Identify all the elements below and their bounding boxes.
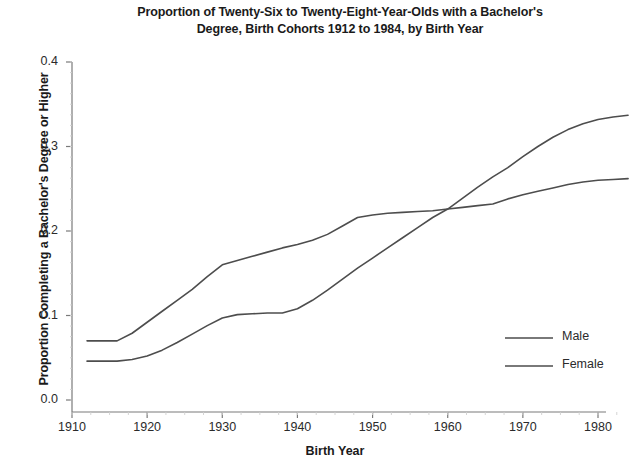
x-tick-label-4: 1950 bbox=[348, 420, 398, 434]
x-tick-label-3: 1940 bbox=[272, 420, 322, 434]
y-tick-label-2: 0.2 bbox=[24, 223, 58, 237]
series-line-male bbox=[87, 179, 628, 341]
chart-figure: Proportion of Twenty-Six to Twenty-Eight… bbox=[0, 0, 640, 470]
x-tick-label-7: 1980 bbox=[573, 420, 623, 434]
legend-label-male: Male bbox=[562, 329, 589, 343]
y-tick-label-3: 0.3 bbox=[24, 139, 58, 153]
x-tick-label-5: 1960 bbox=[423, 420, 473, 434]
y-tick-label-4: 0.4 bbox=[24, 54, 58, 68]
series-line-female bbox=[87, 115, 628, 361]
x-tick-label-2: 1930 bbox=[197, 420, 247, 434]
legend-label-female: Female bbox=[562, 357, 604, 371]
y-tick-label-1: 0.1 bbox=[24, 308, 58, 322]
y-tick-label-0: 0.0 bbox=[24, 392, 58, 406]
axes bbox=[66, 62, 617, 418]
plot-area bbox=[0, 0, 640, 470]
x-tick-label-6: 1970 bbox=[498, 420, 548, 434]
x-tick-label-0: 1910 bbox=[47, 420, 97, 434]
data-series bbox=[87, 115, 628, 361]
legend-swatches bbox=[505, 338, 553, 366]
x-tick-label-1: 1920 bbox=[122, 420, 172, 434]
